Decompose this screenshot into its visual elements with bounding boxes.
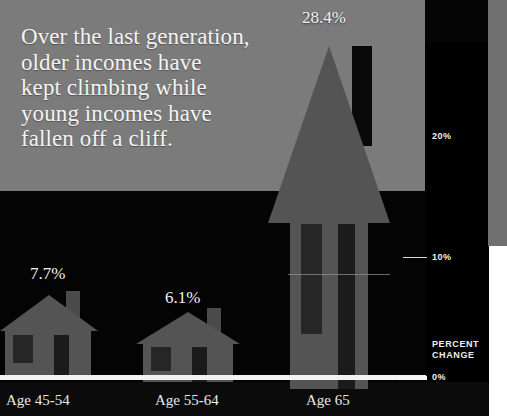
right-black-panel: [425, 43, 489, 390]
ytick-label-0: 0%: [432, 372, 446, 382]
category-label-age-65: Age 65: [306, 392, 350, 409]
value-label-age-55-64: 6.1%: [165, 288, 200, 308]
category-label-strip: [0, 382, 489, 416]
gridline-10-percent: [288, 274, 390, 275]
axis-title-percent-change: PERCENT CHANGE: [432, 339, 479, 361]
house-pictogram-age-45-54: [0, 287, 103, 376]
ytick-mark-0: [399, 376, 427, 380]
window: [151, 347, 171, 371]
value-label-age-45-54: 7.7%: [30, 264, 65, 284]
right-gray-strip: [488, 0, 507, 246]
category-label-age-55-64: Age 55-64: [155, 392, 219, 409]
door: [338, 224, 355, 389]
ytick-label-10: 10%: [432, 252, 452, 262]
door: [54, 335, 69, 376]
window: [13, 335, 33, 363]
roof: [136, 312, 240, 344]
ytick-mark-10: [403, 257, 427, 258]
value-label-age-65: 28.4%: [302, 8, 346, 28]
roof: [0, 295, 98, 331]
house-pictogram-age-65: [268, 13, 390, 376]
ytick-label-20: 20%: [432, 131, 452, 141]
window: [301, 224, 322, 334]
house-pictogram-age-55-64: [131, 306, 245, 376]
category-label-age-45-54: Age 45-54: [6, 392, 70, 409]
roof: [268, 46, 390, 223]
axis-baseline: [0, 375, 426, 380]
infographic-chart: Over the last generation, older incomes …: [0, 0, 507, 416]
